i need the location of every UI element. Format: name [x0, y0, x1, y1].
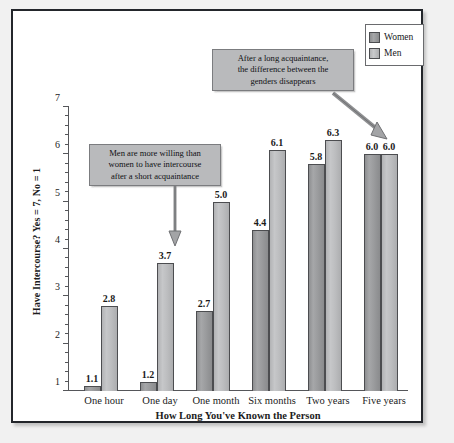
y-tick-minor	[65, 267, 69, 268]
y-tick-minor	[65, 182, 69, 183]
y-tick-minor	[65, 324, 69, 325]
y-tick-minor	[65, 191, 69, 192]
bar-women[interactable]	[196, 311, 213, 391]
y-tick-major	[63, 153, 69, 154]
bar-men[interactable]	[157, 263, 174, 391]
bar-men[interactable]	[381, 154, 398, 391]
y-tick-major	[63, 201, 69, 202]
y-tick-minor	[65, 257, 69, 258]
y-tick-major	[63, 295, 69, 296]
legend-label-men: Men	[384, 48, 401, 58]
y-tick-minor	[65, 362, 69, 363]
bar-men[interactable]	[101, 306, 118, 391]
legend-swatch-women-icon	[369, 32, 380, 43]
annotation-line: women to have intercourse	[94, 159, 216, 170]
legend-entry-women: Women	[369, 29, 420, 45]
annotation-line: Men are more willing than	[94, 148, 216, 159]
annotation-line: genders disappears	[217, 76, 349, 87]
y-tick-minor	[65, 371, 69, 372]
y-tick-label: 1	[40, 376, 60, 387]
bar-value-label: 5.0	[206, 189, 236, 200]
y-tick-minor	[65, 163, 69, 164]
y-tick-minor	[65, 239, 69, 240]
annotation-line: the difference between the	[217, 64, 349, 75]
y-tick-minor	[65, 314, 69, 315]
chart-frame: 1234567 Have Intercourse? Yes = 7, No = …	[11, 9, 423, 423]
x-category-label: Five years	[339, 395, 429, 406]
y-tick-minor	[65, 210, 69, 211]
y-tick-major	[63, 343, 69, 344]
y-tick-minor	[65, 305, 69, 306]
x-axis-title: How Long You've Known the Person	[68, 410, 408, 421]
annotation-callout-long-acquaintance: After a long acquaintance, the differenc…	[212, 49, 354, 91]
bar-women[interactable]	[140, 382, 157, 391]
plot-area: 1234567 Have Intercourse? Yes = 7, No = …	[13, 11, 421, 421]
bar-women[interactable]	[252, 230, 269, 391]
bar-value-label: 6.1	[262, 137, 292, 148]
bar-women[interactable]	[308, 164, 325, 391]
y-tick-minor	[65, 276, 69, 277]
y-tick-minor	[65, 220, 69, 221]
y-tick-label: 7	[40, 92, 60, 103]
y-tick-minor	[65, 333, 69, 334]
legend-swatch-men-icon	[369, 48, 380, 59]
y-tick-label: 3	[40, 281, 60, 292]
bar-value-label: 3.7	[150, 250, 180, 261]
y-tick-major	[63, 390, 69, 391]
y-axis-title: Have Intercourse? Yes = 7, No = 1	[31, 127, 42, 357]
bar-women[interactable]	[84, 386, 101, 391]
bar-group: 4.46.1	[244, 106, 300, 391]
y-tick-minor	[65, 115, 69, 116]
y-tick-label: 5	[40, 187, 60, 198]
y-tick-label: 4	[40, 234, 60, 245]
y-tick-minor	[65, 125, 69, 126]
bar-women[interactable]	[364, 154, 381, 391]
y-tick-minor	[65, 144, 69, 145]
y-tick-minor	[65, 352, 69, 353]
y-tick-major	[63, 248, 69, 249]
annotation-line: after a short acquaintance	[94, 171, 216, 182]
annotation-line: After a long acquaintance,	[217, 53, 349, 64]
bar-men[interactable]	[325, 140, 342, 391]
y-tick-label: 2	[40, 329, 60, 340]
annotation-arrow-diagonal-icon	[331, 91, 393, 147]
y-tick-minor	[65, 134, 69, 135]
y-tick-minor	[65, 286, 69, 287]
annotation-callout-short-acquaintance: Men are more willing than women to have …	[89, 144, 221, 186]
legend-entry-men: Men	[369, 45, 420, 61]
chart-page: 1234567 Have Intercourse? Yes = 7, No = …	[0, 0, 454, 443]
annotation-arrow-down-icon	[168, 186, 182, 248]
bar-group: 6.06.0	[356, 106, 412, 391]
y-tick-minor	[65, 172, 69, 173]
y-tick-label: 6	[40, 139, 60, 150]
legend-label-women: Women	[384, 32, 413, 42]
bar-men[interactable]	[269, 150, 286, 391]
legend: Women Men	[365, 24, 424, 66]
y-tick-major	[63, 106, 69, 107]
y-tick-minor	[65, 381, 69, 382]
bar-men[interactable]	[213, 202, 230, 391]
y-tick-minor	[65, 229, 69, 230]
bar-value-label: 2.8	[94, 293, 124, 304]
bar-group: 5.86.3	[300, 106, 356, 391]
